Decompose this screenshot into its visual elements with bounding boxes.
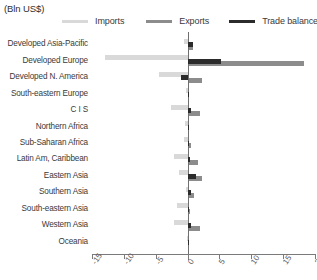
bar-balance bbox=[188, 92, 189, 97]
bar-exports bbox=[188, 78, 203, 83]
bar-imports bbox=[174, 220, 188, 225]
value-axis: -15-10-505101520 bbox=[92, 254, 315, 255]
category-label: C I S bbox=[71, 105, 88, 114]
bar-balance bbox=[188, 207, 189, 212]
legend-label-exports: Exports bbox=[179, 16, 209, 26]
bar-row bbox=[92, 201, 315, 217]
axis-tick-label: 10 bbox=[249, 254, 261, 266]
bar-imports bbox=[174, 154, 187, 159]
bar-imports bbox=[179, 170, 187, 175]
axis-tick-label: -5 bbox=[154, 255, 165, 266]
bar-balance bbox=[181, 75, 188, 80]
legend-label-imports: Imports bbox=[95, 16, 124, 26]
legend-label-trade-balance: Trade balance bbox=[262, 16, 317, 26]
bar-balance bbox=[188, 59, 222, 64]
units-label: (Bln US$) bbox=[4, 3, 44, 14]
trade-bar-chart: (Bln US$) Imports Exports Trade balance … bbox=[0, 0, 317, 280]
bar-balance bbox=[188, 108, 191, 113]
legend-item-imports: Imports bbox=[62, 16, 124, 26]
plot-area bbox=[92, 36, 315, 250]
bar-imports bbox=[105, 55, 188, 60]
bar-row bbox=[92, 217, 315, 233]
bar-row bbox=[92, 102, 315, 118]
category-label: South-eastern Asia bbox=[22, 204, 88, 213]
category-label: Latin Am, Caribbean bbox=[17, 154, 88, 163]
legend-swatch-trade-balance bbox=[229, 20, 255, 23]
category-label: South-eastern Europe bbox=[11, 89, 88, 98]
bar-row bbox=[92, 168, 315, 184]
category-label: Oceania bbox=[59, 237, 88, 246]
axis-tick-label: 5 bbox=[217, 257, 227, 266]
category-label: Sub-Saharan Africa bbox=[20, 138, 88, 147]
bar-balance bbox=[188, 157, 191, 162]
legend-swatch-imports bbox=[62, 20, 88, 23]
bar-balance bbox=[188, 125, 189, 130]
bar-imports bbox=[171, 105, 188, 110]
bar-balance bbox=[188, 240, 189, 245]
category-label: Developed Europe bbox=[23, 56, 88, 65]
bar-balance bbox=[188, 223, 191, 228]
category-label: Developed N. America bbox=[10, 72, 88, 81]
category-label: Western Asia bbox=[42, 220, 88, 229]
category-axis-labels: Developed Asia-PacificDeveloped EuropeDe… bbox=[0, 36, 88, 250]
bar-row bbox=[92, 36, 315, 52]
category-label: Northern Africa bbox=[36, 122, 88, 131]
bar-row bbox=[92, 118, 315, 134]
bar-rows bbox=[92, 36, 315, 250]
bar-balance bbox=[188, 174, 197, 179]
chart-legend: Imports Exports Trade balance bbox=[62, 14, 315, 28]
bar-row bbox=[92, 184, 315, 200]
bar-imports bbox=[177, 203, 187, 208]
legend-item-exports: Exports bbox=[146, 16, 209, 26]
bar-row bbox=[92, 85, 315, 101]
legend-item-trade-balance: Trade balance bbox=[229, 16, 317, 26]
bar-balance bbox=[188, 42, 193, 47]
bar-row bbox=[92, 135, 315, 151]
legend-swatch-exports bbox=[146, 20, 172, 23]
bar-row bbox=[92, 151, 315, 167]
bar-row bbox=[92, 52, 315, 68]
bar-row bbox=[92, 69, 315, 85]
bar-balance bbox=[188, 141, 190, 146]
category-label: Developed Asia-Pacific bbox=[8, 39, 88, 48]
category-label: Eastern Asia bbox=[44, 171, 88, 180]
axis-tick-label: 0 bbox=[186, 257, 196, 266]
bar-balance bbox=[188, 190, 192, 195]
category-label: Southern Asia bbox=[39, 187, 88, 196]
bar-row bbox=[92, 234, 315, 250]
